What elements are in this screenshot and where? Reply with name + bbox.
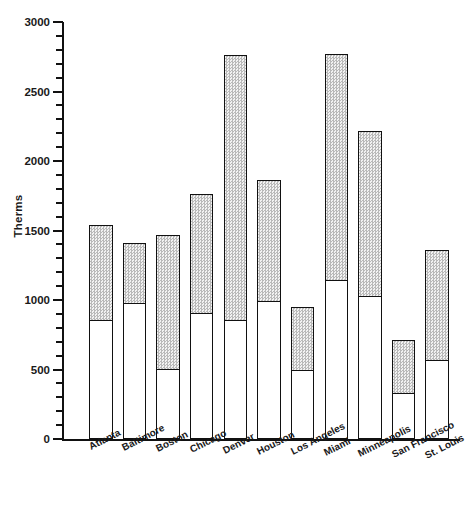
bar-segment-upper (190, 194, 214, 314)
bar (190, 194, 214, 439)
bar-segment-upper (325, 54, 349, 281)
bar-segment-upper (392, 340, 416, 394)
y-tick-label: 3000 (24, 16, 50, 28)
bar-segment-lower (257, 300, 281, 439)
bar (156, 235, 180, 439)
bar-segment-lower (190, 313, 214, 439)
bar-segment-upper (89, 225, 113, 321)
x-axis-labels: AtlantaBaltimoreBostonChicagoDenverHoust… (62, 442, 462, 506)
bar-segment-upper (156, 235, 180, 369)
bar (325, 54, 349, 439)
bar-segment-lower (291, 370, 315, 440)
bar-segment-lower (325, 279, 349, 439)
bar-segment-lower (89, 319, 113, 439)
plot-area: 050010001500200025003000 (62, 22, 460, 440)
y-tick-label: 1000 (24, 294, 50, 306)
bar (358, 131, 382, 439)
y-tick-label: 1500 (24, 225, 50, 237)
bars-group (62, 22, 460, 440)
bar (425, 250, 449, 439)
bar (123, 243, 147, 439)
bar-segment-lower (123, 303, 147, 439)
y-tick-label: 500 (31, 364, 50, 376)
bar-segment-upper (224, 55, 248, 321)
bar-segment-lower (224, 319, 248, 439)
y-tick-label: 0 (44, 433, 50, 445)
y-tick-label: 2000 (24, 155, 50, 167)
bar-segment-upper (358, 131, 382, 297)
bar (291, 307, 315, 439)
bar (89, 225, 113, 439)
y-tick-label: 2500 (24, 86, 50, 98)
y-axis-label: Therms (12, 176, 24, 256)
bar-segment-lower (358, 296, 382, 439)
bar-segment-upper (425, 250, 449, 361)
bar-segment-upper (123, 243, 147, 304)
bar-segment-upper (291, 307, 315, 371)
bar (224, 55, 248, 439)
bar (257, 180, 281, 439)
bar-chart: Therms 050010001500200025003000 AtlantaB… (0, 0, 471, 506)
bar-segment-upper (257, 180, 281, 302)
